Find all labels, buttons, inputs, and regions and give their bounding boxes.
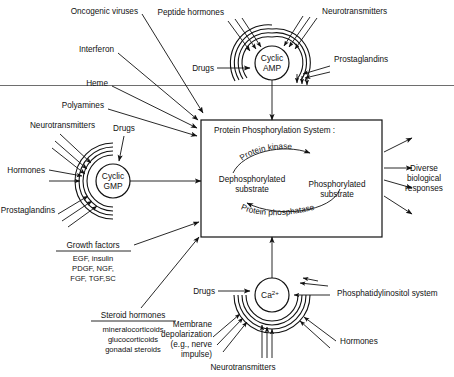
- growth-factors-arrow: [134, 222, 199, 245]
- ca-input-pi-3: [303, 278, 318, 281]
- steroid-hormones-heading: Steroid hormones: [101, 311, 166, 320]
- cgmp-neurotransmitters-label: Neurotransmitters: [30, 121, 95, 130]
- cgmp-drugs-label: Drugs: [113, 124, 135, 133]
- cgmp-prostaglandins-label: Prostaglandins: [1, 206, 55, 215]
- signaling-pathway-diagram: Protein Phosphorylation System : Protein…: [0, 0, 454, 377]
- top-left-inputs-group: Oncogenic viruses Interferon Heme Polyam…: [62, 7, 203, 136]
- cyclic-amp-group: Cyclic AMP: [158, 7, 389, 120]
- output-line3: responses: [405, 184, 443, 193]
- protein-kinase-label: Protein kinase: [238, 142, 293, 163]
- ca-memdep-line3: (e.g., nerve: [171, 340, 213, 349]
- growth-factors-line3: FGF, TGF,SC: [70, 274, 116, 283]
- phosphorylated-substrate-line2: substrate: [320, 190, 354, 199]
- cgmp-input-pg-3: [68, 206, 97, 227]
- ca-drugs-label: Drugs: [193, 287, 215, 296]
- diverse-responses-group: Diverse biological responses: [384, 138, 443, 214]
- calcium-group: Ca2+ Drugs Phosphatidylinos: [161, 237, 438, 372]
- heme-label: Heme: [86, 79, 108, 88]
- growth-factors-line2: PDGF, NGF,: [72, 264, 114, 273]
- output-arrow-1: [384, 138, 412, 152]
- steroid-hormones-line2: glucocorticoids: [108, 335, 158, 344]
- cgmp-input-hormones-1: [49, 170, 82, 176]
- ca-neurotransmitters-label: Neurotransmitters: [210, 363, 275, 372]
- cyclic-gmp-group: Cyclic GMP Neurotransmitters Hormones Pr…: [1, 121, 201, 227]
- camp-drugs-label: Drugs: [192, 64, 214, 73]
- cgmp-input-drugs-arrow: [119, 136, 124, 161]
- ca-memdep-line4: impulse): [181, 350, 212, 359]
- polyamines-label: Polyamines: [62, 101, 104, 110]
- cyclic-gmp-line2: GMP: [103, 181, 122, 191]
- ca-phosphatidylinositol-label: Phosphatidylinositol system: [337, 289, 438, 298]
- interferon-label: Interferon: [79, 45, 114, 54]
- figure-canvas: Protein Phosphorylation System : Protein…: [0, 0, 454, 377]
- cgmp-hormones-label: Hormones: [7, 166, 45, 175]
- output-arrow-4: [384, 196, 412, 214]
- ca-hormones-label: Hormones: [340, 337, 378, 346]
- interferon-arrow: [118, 53, 198, 120]
- camp-neurotransmitters-label: Neurotransmitters: [322, 7, 387, 16]
- box-heading: Protein Phosphorylation System :: [214, 126, 335, 135]
- steroid-hormones-line1: mineralocorticoids: [102, 325, 163, 334]
- ca-input-pi-2: [300, 283, 328, 286]
- growth-factors-group: Growth factors EGF, insulin PDGF, NGF, F…: [56, 222, 199, 283]
- oncogenic-viruses-label: Oncogenic viruses: [71, 7, 138, 16]
- dephosphorylated-substrate-line2: substrate: [235, 185, 269, 194]
- growth-factors-line1: EGF, insulin: [73, 254, 114, 263]
- camp-prostaglandins-label: Prostaglandins: [334, 55, 388, 64]
- phosphorylated-substrate-line1: Phosphorylated: [309, 180, 366, 189]
- steroid-hormones-arrow: [141, 237, 199, 308]
- cyclic-amp-line1: Cyclic: [261, 53, 283, 63]
- steroid-hormones-line3: gonadal steroids: [105, 345, 161, 354]
- ca-memdep-line2: depolarization: [161, 330, 212, 339]
- cyclic-amp-line2: AMP: [263, 63, 282, 73]
- output-line1: Diverse: [410, 164, 438, 173]
- output-line2: biological: [407, 174, 441, 183]
- ca-memdep-line1: Membrane: [173, 320, 213, 329]
- heme-arrow: [112, 86, 197, 128]
- camp-peptide-hormones-label: Peptide hormones: [158, 8, 224, 17]
- dephosphorylated-substrate-line1: Dephosphorylated: [219, 175, 286, 184]
- cyclic-gmp-line1: Cyclic: [102, 171, 124, 181]
- cgmp-input-pg-2: [62, 201, 92, 221]
- growth-factors-heading: Growth factors: [66, 241, 119, 250]
